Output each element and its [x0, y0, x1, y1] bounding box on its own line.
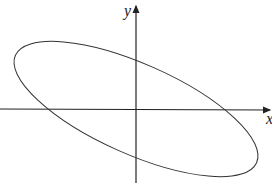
y-axis-label: y: [124, 2, 131, 20]
x-axis-label: x: [266, 110, 272, 128]
x-axis: [0, 109, 270, 110]
diagram: y x: [0, 0, 272, 189]
coordinate-plane: [0, 0, 272, 189]
